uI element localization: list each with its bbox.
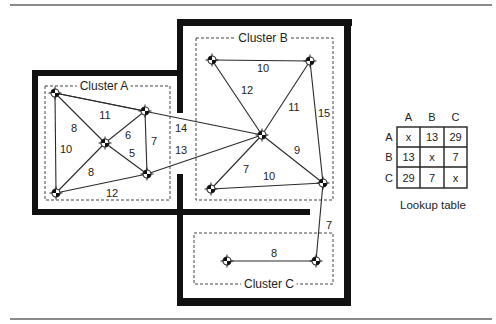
edge-b2-b5 [310,61,323,183]
edge-weight-a5-b3: 13 [175,144,187,156]
edge-b1-b2 [212,60,310,61]
edge-b2-b3 [262,61,310,135]
table-cell-a-a: x [406,131,412,143]
cluster-a-label: Cluster A [80,79,129,93]
edge-b1-b3 [212,60,262,135]
wall-upper-divider [177,19,183,113]
cluster-network-diagram: Cluster A Cluster B Cluster C 8 11 10 6 … [0,0,496,324]
edge-weight-a1-b3: 14 [175,122,187,134]
edge-a1-a2 [55,93,105,143]
edge-weight-b1-b2: 10 [257,62,269,74]
edge-weight-b2-b3: 11 [288,101,299,113]
table-cell-c-a: 29 [402,172,414,184]
node-b1-icon [206,54,219,67]
col-header-b: B [428,111,435,123]
edge-a4-a5 [56,174,147,193]
cluster-b-label: Cluster B [238,31,287,45]
edge-weight-a2-a5: 5 [129,147,135,159]
wall-b-top [177,19,352,26]
wall-a-top [32,70,183,76]
edge-b5-c2 [316,183,323,261]
wall-a-left [32,70,38,215]
edge-weight-b3-b4: 7 [243,163,249,175]
wall-lower-divider [177,174,183,306]
node-a3-icon [139,105,152,118]
row-header-b: B [385,151,392,163]
wall-bottom [177,298,351,306]
edge-weight-b2-b5: 15 [318,107,330,119]
table-cell-c-b: 7 [429,172,435,184]
lookup-table-caption: Lookup table [400,199,466,211]
edge-a1-b3 [55,93,262,135]
cluster-c-label: Cluster C [244,277,294,291]
lookup-table: A B C A B C x 13 29 13 x 7 29 7 x Lookup… [385,111,467,211]
table-cell-b-b: x [429,151,435,163]
row-header-a: A [385,131,393,143]
edge-weight-b5-c2: 7 [326,219,332,231]
walls [32,19,352,306]
edge-weight-a1-a4: 10 [60,143,72,155]
node-b5-icon [317,177,330,190]
wall-right [344,19,351,306]
row-header-c: C [385,172,393,184]
table-cell-b-c: 7 [452,151,458,163]
table-cell-a-c: 29 [449,131,461,143]
edge-weight-a1-a2: 8 [71,122,77,134]
edge-weight-a2-a4: 8 [88,166,94,178]
edge-weight-b1-b3: 12 [241,84,253,96]
col-header-a: A [405,111,413,123]
edge-b4-b5 [211,183,323,189]
edge-a1-a4 [55,93,56,193]
edge-weight-b4-b5: 10 [263,170,275,182]
table-cell-b-a: 13 [402,151,414,163]
wall-middle-horizontal [32,209,310,215]
edge-weight-a4-a5: 12 [106,187,118,199]
edge-a2-a5 [105,143,147,174]
edge-a3-a5 [145,111,147,174]
node-a5-icon [141,168,154,181]
node-c2-icon [310,255,323,268]
edge-weight-c1-c2: 8 [271,247,277,259]
edge-weight-a2-a3: 6 [125,129,131,141]
node-b2-icon [304,55,317,68]
edge-weight-b3-b5: 9 [294,144,300,156]
col-header-c: C [452,111,460,123]
edge-weight-a3-a5: 7 [151,135,157,147]
table-cell-c-c: x [453,172,459,184]
table-cell-a-b: 13 [426,131,438,143]
node-c1-icon [221,255,234,268]
edge-weight-a1-a3: 11 [99,109,110,121]
